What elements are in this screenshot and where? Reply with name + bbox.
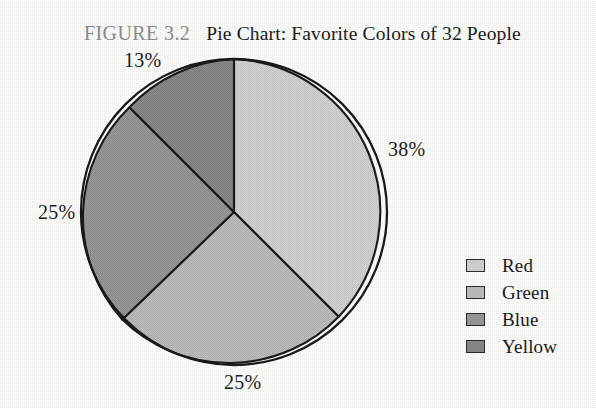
legend-swatch-red xyxy=(466,259,485,272)
legend-label-yellow: Yellow xyxy=(502,337,557,356)
legend-item-green: Green xyxy=(466,279,557,305)
legend-label-blue: Blue xyxy=(502,310,539,329)
legend-swatch-yellow xyxy=(466,340,485,353)
legend-swatch-blue xyxy=(466,313,485,326)
page-title: Pie Chart: Favorite Colors of 32 People xyxy=(206,23,521,44)
pie-slice-green xyxy=(122,212,338,363)
legend-label-red: Red xyxy=(502,256,533,275)
chart-legend: Red Green Blue Yellow xyxy=(466,252,557,360)
legend-item-yellow: Yellow xyxy=(466,333,557,359)
legend-item-blue: Blue xyxy=(466,306,557,332)
figure-page: FIGURE 3.2Pie Chart: Favorite Colors of … xyxy=(0,0,596,408)
pie-slice-blue xyxy=(83,107,234,319)
legend-item-red: Red xyxy=(466,252,557,278)
pie-label-red: 38% xyxy=(388,138,425,161)
figure-caption: FIGURE 3.2Pie Chart: Favorite Colors of … xyxy=(84,22,521,45)
pie-label-yellow: 13% xyxy=(124,49,161,72)
pie-slice-red xyxy=(234,59,380,317)
pie-slice-yellow xyxy=(129,59,234,212)
pie-label-green: 25% xyxy=(224,371,261,394)
pie-label-blue: 25% xyxy=(38,201,75,224)
pie-outline xyxy=(81,59,387,365)
legend-swatch-green xyxy=(466,286,485,299)
figure-number-label: FIGURE 3.2 xyxy=(84,22,190,44)
legend-label-green: Green xyxy=(502,283,549,302)
